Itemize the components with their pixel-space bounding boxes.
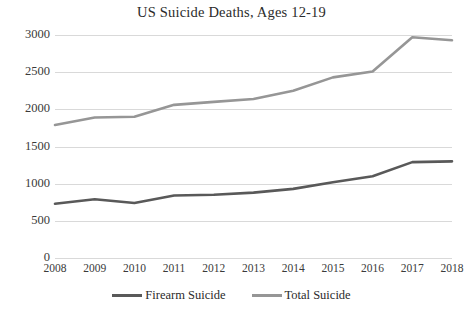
x-axis-tick-label: 2011: [152, 262, 196, 274]
x-axis: 2008200920102011201220132014201520162017…: [55, 262, 452, 280]
gridline: [55, 258, 452, 259]
gridline: [55, 72, 452, 73]
gridline: [55, 35, 452, 36]
chart-title: US Suicide Deaths, Ages 12-19: [0, 4, 463, 21]
legend-line-icon: [112, 294, 142, 297]
y-axis-tick-label: 3000: [6, 28, 50, 40]
chart-legend: Firearm SuicideTotal Suicide: [0, 288, 463, 303]
gridline: [55, 184, 452, 185]
x-axis-tick-label: 2014: [271, 262, 315, 274]
x-axis-tick-label: 2008: [33, 262, 77, 274]
x-axis-tick-label: 2016: [351, 262, 395, 274]
gridline: [55, 109, 452, 110]
legend-line-icon: [252, 294, 282, 297]
x-axis-tick-label: 2013: [232, 262, 276, 274]
y-axis-tick-label: 500: [6, 214, 50, 226]
x-axis-tick-label: 2015: [311, 262, 355, 274]
x-axis-tick-label: 2010: [112, 262, 156, 274]
y-axis-tick-label: 2000: [6, 102, 50, 114]
plot-area: [55, 35, 452, 258]
x-axis-tick-label: 2017: [390, 262, 434, 274]
y-axis-tick-label: 1500: [6, 140, 50, 152]
y-axis-tick-label: 1000: [6, 177, 50, 189]
legend-label: Firearm Suicide: [145, 288, 225, 303]
legend-item[interactable]: Total Suicide: [252, 288, 351, 303]
gridline: [55, 147, 452, 148]
legend-label: Total Suicide: [285, 288, 351, 303]
legend-item[interactable]: Firearm Suicide: [112, 288, 225, 303]
y-axis-tick-label: 2500: [6, 65, 50, 77]
x-axis-tick-label: 2018: [430, 262, 468, 274]
gridline: [55, 221, 452, 222]
x-axis-tick-label: 2012: [192, 262, 236, 274]
x-axis-tick-label: 2009: [73, 262, 117, 274]
